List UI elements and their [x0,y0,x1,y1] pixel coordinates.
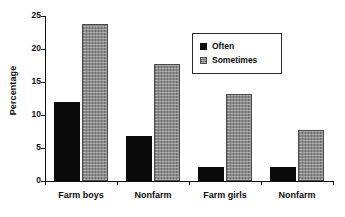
y-tick-mark [41,16,46,17]
bar-often-0 [54,102,80,181]
bar-sometimes-0 [82,24,108,181]
category-label-2: Farm girls [203,190,247,200]
y-tick-label: 25 [32,10,41,20]
y-tick-5: 5 [45,148,46,149]
y-tick-mark [41,49,46,50]
x-tick-mark [333,181,334,185]
y-tick-mark [41,115,46,116]
bar-often-1 [126,136,152,181]
y-axis-line [45,16,46,181]
legend-swatch-sometimes [200,57,207,64]
chart-legend: Often Sometimes [192,33,282,74]
bar-often-2 [198,167,224,181]
legend-item-often: Often [200,39,274,53]
y-tick-label: 0 [36,175,41,185]
category-label-0: Farm boys [58,190,104,200]
y-axis-title: Percentage [6,0,20,181]
y-tick-15: 15 [45,82,46,83]
y-tick-label: 10 [32,109,41,119]
bar-often-3 [270,167,296,181]
category-label-3: Nonfarm [278,190,315,200]
bar-sometimes-3 [298,130,324,181]
y-tick-25: 25 [45,16,46,17]
y-tick-label: 20 [32,43,41,53]
legend-label-sometimes: Sometimes [212,55,257,65]
bar-sometimes-1 [154,64,180,181]
x-tick-mark [45,181,46,185]
legend-swatch-often [200,43,207,50]
category-label-1: Nonfarm [134,190,171,200]
x-tick-mark [261,181,262,185]
y-tick-mark [41,82,46,83]
y-tick-20: 20 [45,49,46,50]
bar-chart-figure: Percentage 0510152025 Farm boysNonfarmFa… [0,0,345,217]
legend-label-often: Often [212,41,234,51]
y-tick-label: 15 [32,76,41,86]
bar-sometimes-2 [226,94,252,181]
legend-item-sometimes: Sometimes [200,53,274,67]
y-tick-10: 10 [45,115,46,116]
x-tick-mark [189,181,190,185]
y-tick-mark [41,148,46,149]
y-tick-label: 5 [36,142,41,152]
plot-area: 0510152025 [45,16,333,181]
x-tick-mark [117,181,118,185]
